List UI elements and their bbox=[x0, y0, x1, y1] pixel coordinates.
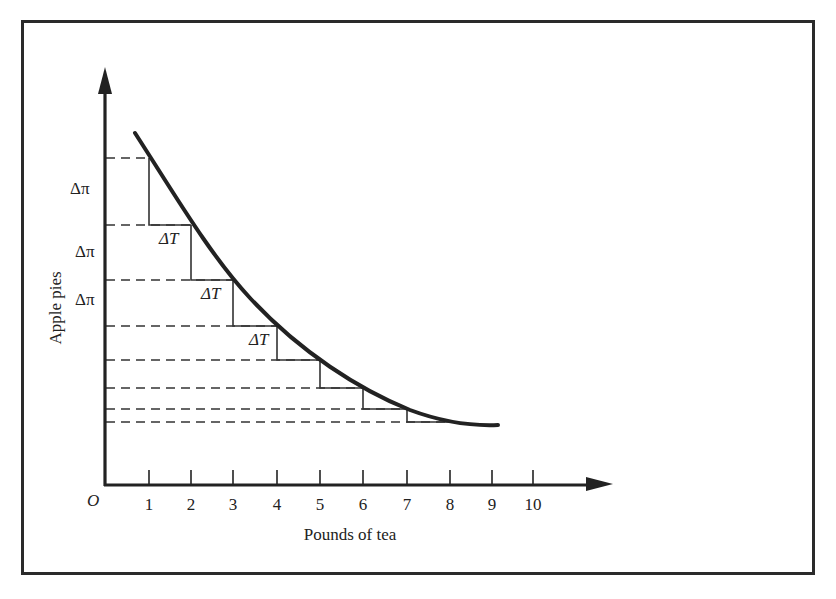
delta-t-label: ΔT bbox=[201, 285, 220, 302]
x-tick-label: 2 bbox=[187, 496, 196, 513]
x-tick-label: 4 bbox=[273, 496, 282, 513]
y-axis-title: Apple pies bbox=[46, 271, 66, 344]
x-tick-label: 7 bbox=[403, 496, 412, 513]
x-tick-label: 8 bbox=[446, 496, 455, 513]
step-triangles bbox=[149, 158, 450, 422]
x-tick-label: 3 bbox=[229, 496, 238, 513]
delta-t-label: ΔT bbox=[249, 331, 268, 348]
x-tick-label: 6 bbox=[359, 496, 368, 513]
delta-t-label: ΔT bbox=[159, 230, 178, 247]
delta-pi-label: Δπ bbox=[75, 243, 95, 260]
y-axis-arrow-icon bbox=[98, 67, 112, 94]
x-tick-label: 5 bbox=[316, 496, 325, 513]
x-axis-arrow-icon bbox=[586, 477, 613, 491]
delta-pi-label: Δπ bbox=[75, 291, 95, 308]
x-ticks bbox=[149, 470, 533, 485]
x-axis-title: Pounds of tea bbox=[304, 525, 397, 545]
x-tick-label: 10 bbox=[525, 496, 542, 513]
origin-label: O bbox=[87, 492, 99, 509]
chart-canvas bbox=[0, 0, 836, 599]
axes bbox=[98, 67, 613, 491]
dashed-guides bbox=[106, 158, 450, 422]
x-tick-label: 9 bbox=[488, 496, 497, 513]
delta-pi-label: Δπ bbox=[70, 180, 90, 197]
x-tick-label: 1 bbox=[145, 496, 154, 513]
ppf-curve bbox=[135, 133, 498, 425]
